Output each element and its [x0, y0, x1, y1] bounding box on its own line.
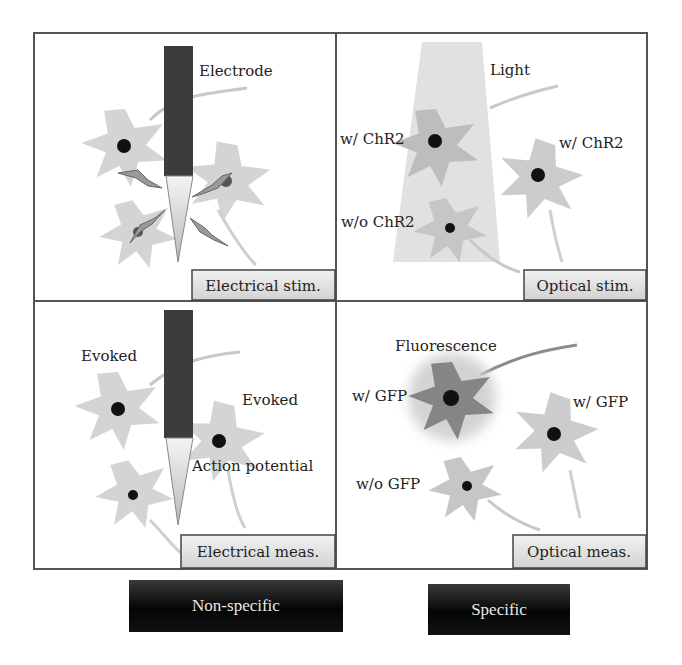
tag-label: Optical stim. — [536, 277, 633, 295]
label-without-gfp: w/o GFP — [356, 475, 420, 493]
label-with-chr2-left: w/ ChR2 — [340, 130, 405, 148]
label-with-gfp-left: w/ GFP — [352, 387, 407, 405]
tag-optical-stim: Optical stim. — [524, 270, 646, 300]
electrode-tip — [166, 438, 193, 525]
electrode-shaft — [164, 46, 193, 176]
label-action-potential: Action potential — [191, 457, 313, 475]
panel-electrical-stim: Electrode — [81, 46, 277, 276]
label-with-gfp-right: w/ GFP — [573, 393, 628, 411]
panel-optical-stim: Light w/ ChR2 w/ ChR2 w/o ChR2 — [340, 42, 624, 272]
tag-label: Optical meas. — [527, 543, 631, 561]
neuron-nucleus — [117, 139, 131, 153]
lightning-bolt-icon — [118, 170, 162, 188]
electrode-tip — [166, 176, 193, 262]
axon — [490, 86, 558, 108]
tag-label: Electrical stim. — [205, 277, 320, 295]
neuron-nucleus — [462, 481, 472, 491]
neuron-nucleus — [128, 490, 138, 500]
panel-optical-meas: Fluorescence w/ GFP w/ GFP w/o GFP — [352, 337, 628, 530]
tag-electrical-meas: Electrical meas. — [181, 535, 335, 568]
label-with-chr2-right: w/ ChR2 — [559, 134, 624, 152]
axon — [150, 352, 240, 385]
label-light: Light — [490, 61, 530, 79]
tag-electrical-stim: Electrical stim. — [192, 270, 335, 300]
tag-optical-meas: Optical meas. — [513, 535, 646, 568]
neuron-nucleus — [445, 223, 455, 233]
neuron-nucleus — [547, 427, 561, 441]
neuron-nucleus — [531, 168, 545, 182]
label-fluorescence: Fluorescence — [395, 337, 497, 355]
label-electrode: Electrode — [199, 62, 273, 80]
category-non-specific: Non-specific — [129, 580, 343, 632]
panel-electrical-meas: Evoked Evoked Action potential — [74, 310, 313, 556]
lightning-bolt-icon — [190, 218, 228, 246]
neuron-nucleus — [428, 134, 442, 148]
label-evoked-left: Evoked — [81, 347, 137, 365]
electrode-shaft — [164, 310, 193, 438]
neuron-nucleus — [443, 390, 459, 406]
neuron-nucleus — [111, 402, 125, 416]
figure: Electrode Light w/ ChR2 w/ ChR2 w/o ChR2… — [0, 0, 682, 665]
category-specific: Specific — [428, 584, 570, 635]
label-without-chr2: w/o ChR2 — [341, 213, 415, 231]
neuron-nucleus — [212, 434, 226, 448]
label-evoked-right: Evoked — [242, 391, 298, 409]
tag-label: Electrical meas. — [197, 543, 319, 561]
